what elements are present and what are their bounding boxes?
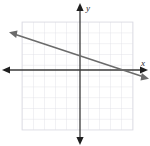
y-axis-bottom-arrow — [76, 137, 83, 145]
graph-canvas: y x — [0, 0, 150, 146]
grid-lines — [22, 22, 133, 130]
y-axis-top-arrow — [76, 3, 83, 11]
x-axis-label: x — [140, 58, 145, 68]
coordinate-plane-figure: y x — [0, 0, 150, 146]
y-axis-label: y — [85, 3, 90, 13]
x-axis-left-arrow — [2, 66, 10, 73]
line-right-arrow — [141, 73, 150, 80]
line-left-arrow — [9, 31, 18, 38]
